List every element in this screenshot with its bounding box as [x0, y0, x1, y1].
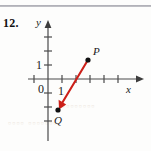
y-axis-arrowhead	[45, 20, 52, 28]
figure-panel: 12. ▫▫▫▫▫▫▫▫ ▫▫▫▫ ▫▫▫▫▫▫▫	[0, 0, 151, 151]
y-unit-tick-label: 1	[36, 58, 42, 72]
x-axis-label: x	[125, 83, 131, 95]
coordinate-plane: x y 0 1 1 P Q	[0, 0, 151, 151]
x-axis-arrowhead	[136, 76, 144, 83]
point-P-marker	[85, 57, 90, 62]
origin-label: 0	[38, 82, 44, 96]
point-Q-marker	[55, 107, 60, 112]
x-unit-tick-label: 1	[58, 84, 64, 98]
point-P-label: P	[92, 45, 100, 57]
point-Q-label: Q	[54, 114, 62, 126]
y-axis-label: y	[35, 16, 41, 28]
axis-lines	[28, 20, 144, 141]
PQ-arrow-shaft	[62, 62, 88, 105]
